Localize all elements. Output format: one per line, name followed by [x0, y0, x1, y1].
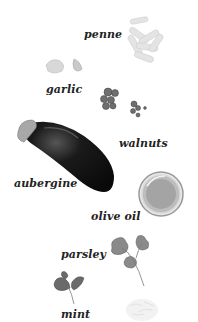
- parsley-icon: [108, 234, 158, 288]
- label-mint: mint: [61, 308, 90, 321]
- label-parsley: parsley: [61, 248, 106, 261]
- mint-icon: [52, 270, 88, 306]
- grated-cheese-icon: [124, 296, 160, 322]
- label-olive-oil: olive oil: [91, 210, 141, 223]
- label-garlic: garlic: [46, 83, 82, 96]
- label-penne: penne: [84, 28, 122, 41]
- label-walnuts: walnuts: [119, 137, 168, 150]
- olive-oil-dish-icon: [137, 170, 185, 218]
- garlic-icon: [44, 55, 86, 77]
- label-aubergine: aubergine: [14, 177, 77, 190]
- ingredients-illustration: penne garlic: [0, 0, 198, 322]
- penne-pasta-icon: [118, 16, 170, 66]
